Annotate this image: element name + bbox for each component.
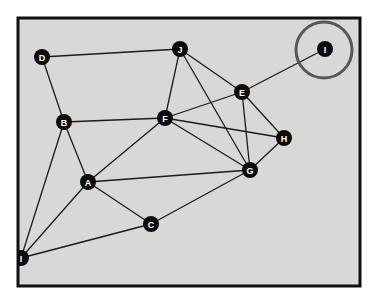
graph-node-f[interactable]: F bbox=[157, 110, 173, 126]
graph-node-d[interactable]: D bbox=[34, 49, 50, 65]
node-label-h: H bbox=[281, 134, 288, 144]
node-label-c: C bbox=[148, 220, 155, 230]
graph-node-a[interactable]: A bbox=[80, 174, 96, 190]
graph-node-b[interactable]: B bbox=[56, 114, 72, 130]
node-label-e: E bbox=[239, 88, 245, 98]
graph-node-j[interactable]: J bbox=[172, 41, 188, 57]
node-label-b: B bbox=[61, 118, 68, 128]
node-label-f: F bbox=[162, 114, 168, 124]
node-label-d: D bbox=[39, 53, 46, 63]
graph-node-g[interactable]: G bbox=[242, 162, 258, 178]
node-label-a: A bbox=[85, 178, 92, 188]
graph-node-h[interactable]: H bbox=[276, 130, 292, 146]
graph-node-i[interactable]: I bbox=[317, 41, 333, 57]
node-label-i2: I bbox=[20, 254, 23, 264]
node-label-g: G bbox=[246, 166, 253, 176]
graph-node-c[interactable]: C bbox=[143, 216, 159, 232]
graph-node-e[interactable]: E bbox=[234, 84, 250, 100]
node-label-j: J bbox=[177, 45, 182, 55]
diagram-canvas: ABCDEFGHIJI bbox=[0, 0, 377, 300]
node-label-i: I bbox=[324, 45, 327, 55]
graph-figure: ABCDEFGHIJI bbox=[0, 0, 377, 300]
